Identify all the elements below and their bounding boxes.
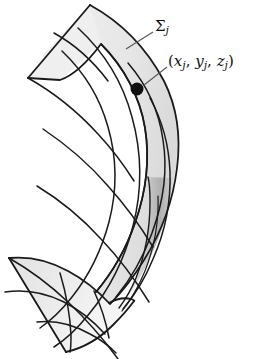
sample-point-dot[interactable] [131,83,144,96]
surface-figure: Σj (xj, yj, zj) [0,0,257,359]
surface-upper-left-fill [28,5,101,80]
surface-diagram-canvas [0,0,257,359]
